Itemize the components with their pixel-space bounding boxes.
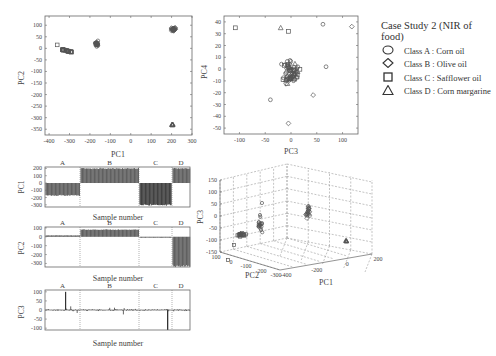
x-axis-label: PC3 xyxy=(284,147,298,156)
pc2-scores-bar-plot: ABCD1000-100-200-300 Sample number PC2 xyxy=(0,217,200,283)
svg-text:-100: -100 xyxy=(31,325,42,331)
svg-text:0: 0 xyxy=(39,180,42,186)
svg-text:200: 200 xyxy=(374,256,383,262)
svg-text:B: B xyxy=(107,282,112,290)
svg-text:-350: -350 xyxy=(31,126,42,132)
svg-text:100: 100 xyxy=(33,289,42,295)
legend-label: Class D : Corn margarine xyxy=(404,86,491,96)
svg-text:100: 100 xyxy=(33,173,42,179)
svg-text:200: 200 xyxy=(33,165,42,171)
svg-text:-10: -10 xyxy=(213,78,221,84)
pc1-pc2-scatter-plot: -400-300-200-1000100200300100500-50-100-… xyxy=(0,0,200,160)
svg-text:0: 0 xyxy=(218,66,221,72)
svg-text:-50: -50 xyxy=(213,125,221,131)
svg-text:A: A xyxy=(60,219,65,227)
svg-text:-400: -400 xyxy=(44,138,55,144)
legend-item-class-d: Class D : Corn margarine xyxy=(381,85,496,99)
svg-text:50: 50 xyxy=(36,298,42,304)
svg-text:-50: -50 xyxy=(209,225,217,231)
svg-text:100: 100 xyxy=(208,189,217,195)
svg-text:30: 30 xyxy=(215,31,221,37)
svg-text:100: 100 xyxy=(33,225,42,231)
svg-text:-200: -200 xyxy=(84,138,95,144)
svg-text:C: C xyxy=(153,282,158,290)
legend-item-class-b: Class B : Olive oil xyxy=(381,58,496,72)
svg-text:B: B xyxy=(107,159,112,167)
svg-text:-300: -300 xyxy=(64,138,75,144)
diamond-icon xyxy=(381,58,395,70)
svg-text:0: 0 xyxy=(290,137,293,143)
legend-label: Class C : Safflower oil xyxy=(404,73,481,83)
svg-text:-200: -200 xyxy=(31,92,42,98)
svg-text:-40: -40 xyxy=(213,113,221,119)
svg-text:-200: -200 xyxy=(311,267,322,273)
svg-text:0: 0 xyxy=(129,138,132,144)
svg-text:-50: -50 xyxy=(34,57,42,63)
pc-3d-scatter-plot: 150100500-50-100-1501000-100-200-300-400… xyxy=(190,160,496,356)
legend-label: Class A : Corn oil xyxy=(404,46,464,56)
svg-text:-250: -250 xyxy=(31,103,42,109)
y-axis-label: PC2 xyxy=(245,271,259,280)
svg-text:D: D xyxy=(178,282,183,290)
svg-text:200: 200 xyxy=(167,138,176,144)
svg-text:0: 0 xyxy=(39,45,42,51)
square-icon xyxy=(381,72,395,84)
svg-text:0: 0 xyxy=(39,234,42,240)
svg-text:B: B xyxy=(107,219,112,227)
svg-text:A: A xyxy=(60,159,65,167)
pc3-scores-bar-plot: ABCD100500-50-100 Sample number PC3 xyxy=(0,281,200,351)
svg-text:C: C xyxy=(153,159,158,167)
circle-icon xyxy=(381,45,395,57)
svg-text:50: 50 xyxy=(314,137,320,143)
legend: Case Study 2 (NIR of food) Class A : Cor… xyxy=(381,20,496,98)
svg-text:20: 20 xyxy=(215,43,221,49)
svg-text:-100: -100 xyxy=(31,187,42,193)
svg-text:50: 50 xyxy=(36,34,42,40)
svg-text:-400: -400 xyxy=(281,272,292,278)
svg-text:0: 0 xyxy=(39,307,42,313)
svg-text:C: C xyxy=(153,219,158,227)
svg-text:100: 100 xyxy=(147,138,156,144)
svg-text:-200: -200 xyxy=(31,195,42,201)
svg-text:D: D xyxy=(178,159,183,167)
x-axis-label: Sample number xyxy=(93,339,144,348)
svg-text:50: 50 xyxy=(211,201,217,207)
svg-text:10: 10 xyxy=(215,54,221,60)
triangle-icon xyxy=(381,85,395,97)
svg-text:-50: -50 xyxy=(34,316,42,322)
svg-text:-100: -100 xyxy=(31,243,42,249)
legend-label: Class B : Olive oil xyxy=(404,59,467,69)
x-axis-label: PC1 xyxy=(319,278,333,287)
y-axis-label: PC2 xyxy=(17,71,26,85)
svg-text:100: 100 xyxy=(212,254,221,260)
svg-text:-300: -300 xyxy=(31,115,42,121)
legend-item-class-a: Class A : Corn oil xyxy=(381,44,496,58)
svg-text:100: 100 xyxy=(338,137,347,143)
svg-text:0: 0 xyxy=(214,213,217,219)
y-axis-label: PC1 xyxy=(17,180,26,193)
y-axis-label: PC2 xyxy=(17,241,26,254)
svg-text:-100: -100 xyxy=(206,237,217,243)
svg-text:-150: -150 xyxy=(31,80,42,86)
svg-text:-100: -100 xyxy=(234,137,245,143)
svg-text:-100: -100 xyxy=(241,263,252,269)
y-axis-label: PC4 xyxy=(200,65,209,79)
svg-text:-300: -300 xyxy=(31,260,42,266)
legend-item-class-c: Class C : Safflower oil xyxy=(381,71,496,85)
svg-text:-30: -30 xyxy=(213,102,221,108)
z-axis-label: PC3 xyxy=(196,210,205,224)
pc3-pc4-scatter-plot: -100-50050100403020100-10-20-30-40-50 PC… xyxy=(190,0,370,160)
svg-text:D: D xyxy=(178,219,183,227)
svg-text:-100: -100 xyxy=(105,138,116,144)
y-axis-label: PC3 xyxy=(17,305,26,318)
pc1-scores-bar-plot: ABCD2001000-100-200-300 Sample number PC… xyxy=(0,157,200,223)
svg-text:-100: -100 xyxy=(31,68,42,74)
svg-text:-200: -200 xyxy=(31,252,42,258)
legend-title: Case Study 2 (NIR of food) xyxy=(381,20,496,42)
svg-text:150: 150 xyxy=(208,177,217,183)
svg-text:-50: -50 xyxy=(261,137,269,143)
svg-text:A: A xyxy=(60,282,65,290)
svg-text:-300: -300 xyxy=(31,202,42,208)
svg-text:0: 0 xyxy=(346,261,349,267)
svg-text:40: 40 xyxy=(215,19,221,25)
